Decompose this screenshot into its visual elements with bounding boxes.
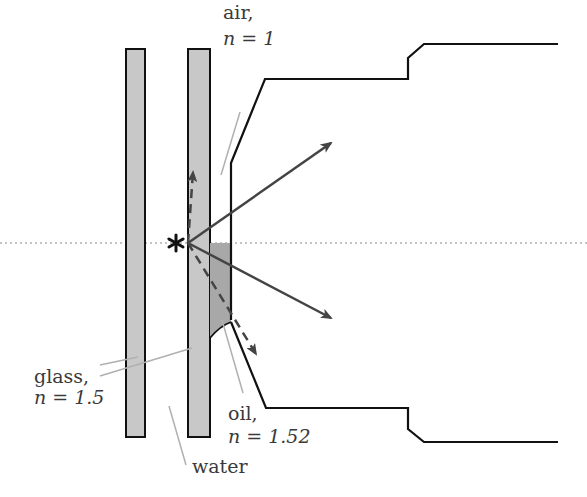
air-n-label: n = 1	[223, 27, 275, 49]
water-label: water	[192, 455, 248, 477]
oil-n-label: n = 1.52	[228, 425, 311, 447]
oil-label: oil,	[228, 402, 258, 424]
air-label: air,	[223, 1, 253, 23]
coverslip	[188, 49, 210, 437]
objective-housing-top	[231, 44, 558, 320]
diagram-canvas: air, n = 1 glass, n = 1.5 oil, n = 1.52 …	[0, 0, 587, 497]
glass-n-label: n = 1.5	[34, 386, 104, 408]
left-glass-slide	[126, 49, 145, 437]
oil-leader	[222, 320, 243, 393]
objective-housing-bottom	[231, 322, 558, 442]
water-leader	[169, 406, 186, 465]
glass-label: glass,	[34, 365, 89, 387]
